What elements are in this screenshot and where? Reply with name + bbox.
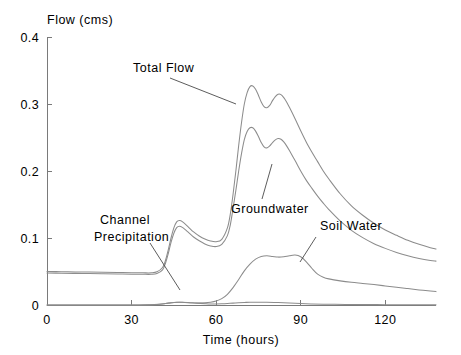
series-label-soil-water: Soil Water [320,219,382,233]
series-label-total-flow: Total Flow [133,61,195,75]
x-tick-label: 90 [293,313,308,327]
y-axis-title: Flow (cms) [47,13,113,27]
series-label-groundwater: Groundwater [231,202,309,216]
y-tick-label: 0.3 [20,98,39,112]
x-tick-label: 60 [209,313,224,327]
hydrograph-chart: Flow (cms) 00.10.20.30.4 0306090120 Tota… [0,0,461,355]
chart-background [0,0,461,355]
y-tick-label: 0.4 [20,31,39,45]
chart-canvas: Flow (cms) 00.10.20.30.4 0306090120 Tota… [0,0,461,355]
y-tick-label: 0 [32,299,39,313]
x-tick-label: 0 [43,313,50,327]
x-tick-label: 120 [374,313,396,327]
y-tick-label: 0.2 [20,165,39,179]
x-axis-title: Time (hours) [203,333,279,347]
y-tick-label: 0.1 [20,232,39,246]
x-tick-label: 30 [124,313,139,327]
